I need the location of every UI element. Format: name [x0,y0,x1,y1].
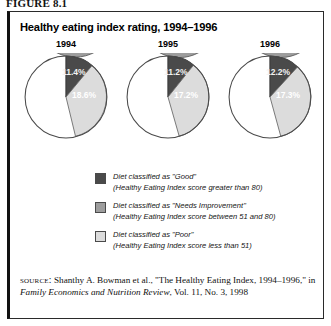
pie-year-label: 1994 [14,39,118,49]
legend-swatch-poor [95,231,106,242]
legend: Diet classified as "Good" (Healthy Eatin… [95,172,315,259]
pie-chart-1994: 1994 11.4% 18.6% 70.0% [14,39,118,164]
pie-year-label: 1996 [218,39,322,49]
pie-chart-1995: 1995 11.2% 17.2% 71.7% [116,39,220,164]
source-publication: Family Economics and Nutrition Review [20,287,170,297]
legend-label-needs-improvement: Diet classified as "Needs Improvement" [113,201,246,210]
legend-sublabel-good: (Healthy Eating Index score greater than… [113,183,315,194]
chart-title: Healthy eating index rating, 1994–1996 [20,21,217,33]
legend-sublabel-needs-improvement: (Healthy Eating Index score between 51 a… [113,212,315,223]
pie-chart-group: 1994 11.4% 18.6% 70.0% [10,39,324,164]
legend-item-good: Diet classified as "Good" (Healthy Eatin… [95,172,315,193]
legend-sublabel-poor: (Healthy Eating Index score less than 51… [113,241,315,252]
legend-item-poor: Diet classified as "Poor" (Healthy Eatin… [95,230,315,251]
legend-swatch-needs-improvement [95,202,106,213]
legend-item-needs-improvement: Diet classified as "Needs Improvement" (… [95,201,315,222]
source-note: source: Shanthy A. Bowman et al., "The H… [20,274,320,298]
source-text-before: Shanthy A. Bowman et al., "The Healthy E… [52,275,316,285]
legend-label-poor: Diet classified as "Poor" [113,230,194,239]
source-keyword: source: [20,274,52,285]
figure-label: FIGURE 8.1 [6,0,67,9]
pie-graphic: 11.4% 18.6% 70.0% [22,53,110,141]
pie-graphic: 12.2% 17.3% 70.5% [226,53,314,141]
pie-graphic: 11.2% 17.2% 71.7% [124,53,212,141]
pie-year-label: 1995 [116,39,220,49]
pie-chart-1996: 1996 12.2% 17.3% 70.5% [218,39,322,164]
source-text-after: , Vol. 11, No. 3, 1998 [170,287,248,297]
figure-container: FIGURE 8.1 Healthy eating index rating, … [0,0,331,326]
legend-label-good: Diet classified as "Good" [113,172,196,181]
legend-swatch-good [95,173,106,184]
figure-frame: Healthy eating index rating, 1994–1996 1… [7,11,324,319]
